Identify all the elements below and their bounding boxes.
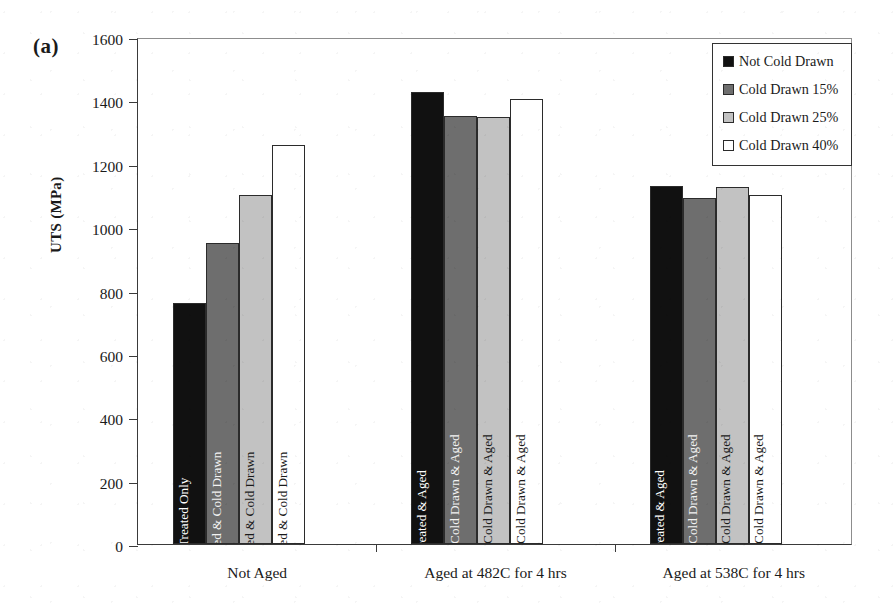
bar[interactable]: Solution Treated, Cold Drawn & Aged xyxy=(477,117,510,544)
bar[interactable]: Solution Treated & Cold Drawn xyxy=(272,145,305,544)
legend-item[interactable]: Cold Drawn 25% xyxy=(723,109,843,126)
bar[interactable]: Solution Treated, Cold Drawn & Aged xyxy=(716,187,749,544)
y-tick: 0 xyxy=(129,546,138,547)
chart-figure: (a) UTS (MPa) 16001400120010008006004002… xyxy=(0,0,893,608)
legend-label: Not Cold Drawn xyxy=(739,53,834,70)
bar-inline-label: Solution Treated, Cold Drawn & Aged xyxy=(752,434,765,544)
bar[interactable]: Solution Treated, Cold Drawn & Aged xyxy=(510,99,543,544)
panel-label: (a) xyxy=(33,34,59,59)
bar-inline-label: Solution Treated & Cold Drawn xyxy=(209,451,222,544)
legend-item[interactable]: Not Cold Drawn xyxy=(723,53,843,70)
y-tick: 1200 xyxy=(129,166,138,167)
y-tick-label: 800 xyxy=(100,285,123,303)
chart-legend: Not Cold DrawnCold Drawn 15%Cold Drawn 2… xyxy=(712,43,852,166)
bar-inline-label: Solution Treated Only xyxy=(176,477,189,544)
bar-inline-label: Solution Treated, Cold Drawn & Aged xyxy=(448,434,461,544)
y-tick: 1000 xyxy=(129,229,138,230)
x-category-label: Aged at 482C for 4 hrs xyxy=(424,564,567,582)
legend-label: Cold Drawn 40% xyxy=(739,137,838,154)
y-axis-title: UTS (MPa) xyxy=(48,177,65,253)
y-tick-label: 600 xyxy=(100,348,123,366)
legend-swatch-icon xyxy=(723,56,734,67)
y-tick-label: 0 xyxy=(115,538,123,556)
x-group-tick xyxy=(615,544,616,552)
y-tick-label: 1600 xyxy=(92,31,123,49)
legend-item[interactable]: Cold Drawn 15% xyxy=(723,81,843,98)
y-tick: 1400 xyxy=(129,102,138,103)
bar-inline-label: Solution Treated, Cold Drawn & Aged xyxy=(514,434,527,544)
bar-inline-label: Solution Treated, Cold Drawn & Aged xyxy=(719,434,732,544)
bar[interactable]: Solution Treated Only xyxy=(173,303,206,544)
bar-inline-label: Solution Treated, Cold Drawn & Aged xyxy=(481,434,494,544)
bar[interactable]: Solution Treated & Cold Drawn xyxy=(239,195,272,544)
bar-inline-label: Solution Treated & Cold Drawn xyxy=(242,451,255,544)
y-tick-label: 1400 xyxy=(92,94,123,112)
y-tick-label: 1000 xyxy=(92,221,123,239)
y-tick: 600 xyxy=(129,356,138,357)
bar[interactable]: Solution Treated & Aged xyxy=(650,186,683,544)
y-tick: 800 xyxy=(129,293,138,294)
x-category-label: Aged at 538C for 4 hrs xyxy=(663,564,806,582)
x-group-tick xyxy=(376,544,377,552)
y-tick: 400 xyxy=(129,419,138,420)
bar-inline-label: Solution Treated, Cold Drawn & Aged xyxy=(686,434,699,544)
legend-label: Cold Drawn 15% xyxy=(739,81,838,98)
y-tick-label: 200 xyxy=(100,475,123,493)
legend-swatch-icon xyxy=(723,112,734,123)
bar[interactable]: Solution Treated & Aged xyxy=(411,92,444,544)
bar-inline-label: Solution Treated & Cold Drawn xyxy=(275,451,288,544)
y-tick-label: 1200 xyxy=(92,158,123,176)
bar[interactable]: Solution Treated & Cold Drawn xyxy=(206,243,239,544)
bar[interactable]: Solution Treated, Cold Drawn & Aged xyxy=(749,195,782,544)
legend-label: Cold Drawn 25% xyxy=(739,109,838,126)
y-tick: 200 xyxy=(129,483,138,484)
y-tick: 1600 xyxy=(129,39,138,40)
bar[interactable]: Solution Treated, Cold Drawn & Aged xyxy=(444,116,477,544)
bar-inline-label: Solution Treated & Aged xyxy=(653,470,666,544)
legend-swatch-icon xyxy=(723,140,734,151)
legend-swatch-icon xyxy=(723,84,734,95)
bar[interactable]: Solution Treated, Cold Drawn & Aged xyxy=(683,198,716,544)
x-category-label: Not Aged xyxy=(227,564,287,582)
bar-inline-label: Solution Treated & Aged xyxy=(415,470,428,544)
y-tick-label: 400 xyxy=(100,411,123,429)
legend-item[interactable]: Cold Drawn 40% xyxy=(723,137,843,154)
